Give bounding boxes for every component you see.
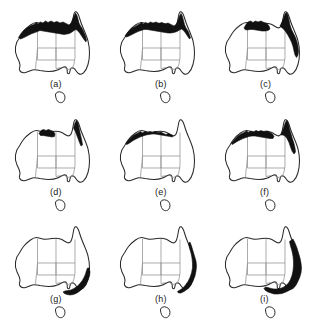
map-panel-e: (e) (105, 108, 210, 216)
tasmania-outline (55, 92, 64, 103)
shade-region-top-end-coast (244, 21, 270, 31)
map-panel-f: (f) (210, 108, 315, 216)
australia-map-f (210, 108, 315, 216)
map-figure-grid: (a)(b)(c)(d)(e)(f)(g)(h)(i) (0, 0, 315, 323)
australia-map-c (210, 0, 315, 108)
map-panel-b: (b) (105, 0, 210, 108)
australia-map-a (0, 0, 105, 108)
australia-map-d (0, 108, 105, 216)
tasmania-outline (160, 92, 169, 103)
australia-map-i (210, 215, 315, 323)
panel-label-e: (e) (155, 187, 167, 197)
australia-map-g (0, 215, 105, 323)
map-panel-h: (h) (105, 215, 210, 323)
tasmania-outline (55, 199, 64, 210)
panel-label-d: (d) (50, 187, 62, 197)
panel-label-g: (g) (50, 294, 62, 304)
map-panel-g: (g) (0, 215, 105, 323)
map-panel-a: (a) (0, 0, 105, 108)
tasmania-outline (265, 92, 274, 103)
australia-map-b (105, 0, 210, 108)
mainland-coastline (225, 227, 299, 289)
panel-label-a: (a) (50, 79, 62, 89)
mainland-coastline (120, 227, 194, 289)
tasmania-outline (55, 307, 64, 318)
tasmania-outline (160, 199, 169, 210)
australia-map-e (105, 108, 210, 216)
australia-map-h (105, 215, 210, 323)
map-panel-d: (d) (0, 108, 105, 216)
tasmania-outline (265, 307, 274, 318)
mainland-coastline (120, 119, 194, 181)
map-panel-c: (c) (210, 0, 315, 108)
panel-label-c: (c) (260, 79, 271, 89)
map-panel-i: (i) (210, 215, 315, 323)
panel-label-i: (i) (260, 294, 269, 304)
panel-label-f: (f) (260, 187, 269, 197)
panel-label-b: (b) (155, 79, 167, 89)
tasmania-outline (265, 199, 274, 210)
panel-label-h: (h) (155, 294, 167, 304)
mainland-coastline (15, 227, 89, 289)
tasmania-outline (160, 307, 169, 318)
